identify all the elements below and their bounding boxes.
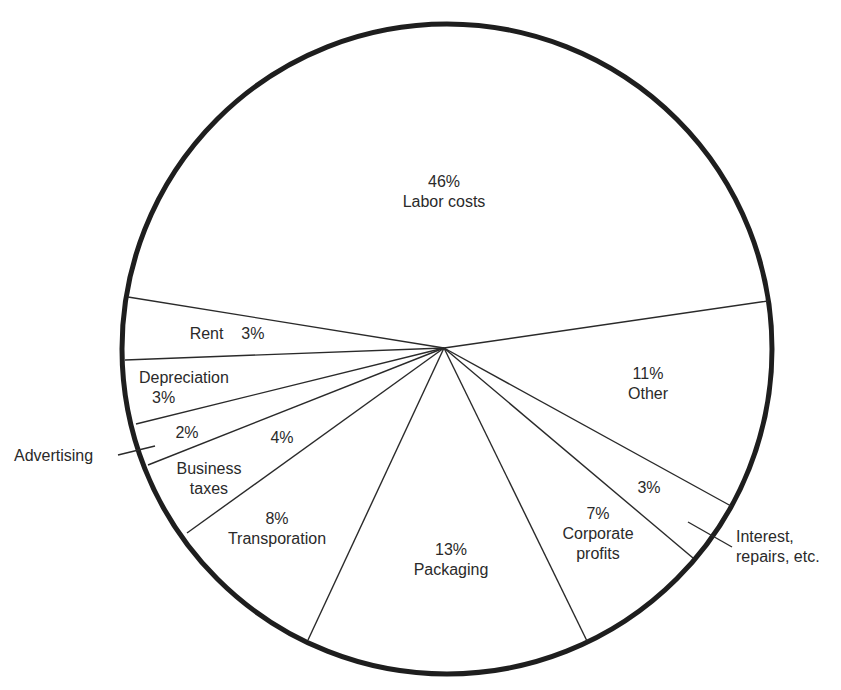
label-labor-name: Labor costs (403, 192, 486, 212)
label-business-pct: 4% (270, 428, 293, 448)
label-rent: Rent 3% (190, 324, 265, 344)
label-interest-line1: Interest, (736, 527, 820, 547)
label-other: 11% Other (628, 364, 668, 404)
label-interest-line2: repairs, etc. (736, 547, 820, 567)
label-packaging-pct: 13% (414, 540, 489, 560)
label-labor-costs: 46% Labor costs (403, 172, 486, 212)
label-packaging: 13% Packaging (414, 540, 489, 580)
label-rent-name: Rent (190, 325, 224, 342)
label-depreciation-name: Depreciation (139, 368, 229, 388)
pie-chart (0, 0, 841, 690)
label-advertising-name: Advertising (14, 446, 93, 466)
label-corporate-line1: Corporate (562, 524, 633, 544)
label-interest-name: Interest, repairs, etc. (736, 527, 820, 567)
label-other-name: Other (628, 384, 668, 404)
label-business-taxes-pct: 4% (270, 428, 293, 448)
label-depreciation-pct: 3% (139, 388, 229, 408)
label-interest-pct-text: 3% (637, 478, 660, 498)
label-corporate-line2: profits (562, 544, 633, 564)
label-transport-name: Transporation (228, 529, 326, 549)
label-business-line2: taxes (177, 479, 242, 499)
label-depreciation: Depreciation 3% (139, 368, 229, 408)
label-corporate-profits: 7% Corporate profits (562, 504, 633, 564)
label-rent-pct: 3% (241, 325, 264, 342)
label-advertising-pct: 2% (175, 423, 198, 443)
label-corporate-pct: 7% (562, 504, 633, 524)
label-labor-pct: 46% (403, 172, 486, 192)
label-business-taxes: Business taxes (177, 459, 242, 499)
label-transportation: 8% Transporation (228, 509, 326, 549)
label-packaging-name: Packaging (414, 560, 489, 580)
label-advertising-name-text: Advertising (14, 446, 93, 466)
label-interest-pct: 3% (637, 478, 660, 498)
label-transport-pct: 8% (228, 509, 326, 529)
label-business-line1: Business (177, 459, 242, 479)
label-rent-spacer (228, 325, 237, 342)
label-other-pct: 11% (628, 364, 668, 384)
label-advertising-pct-text: 2% (175, 423, 198, 443)
